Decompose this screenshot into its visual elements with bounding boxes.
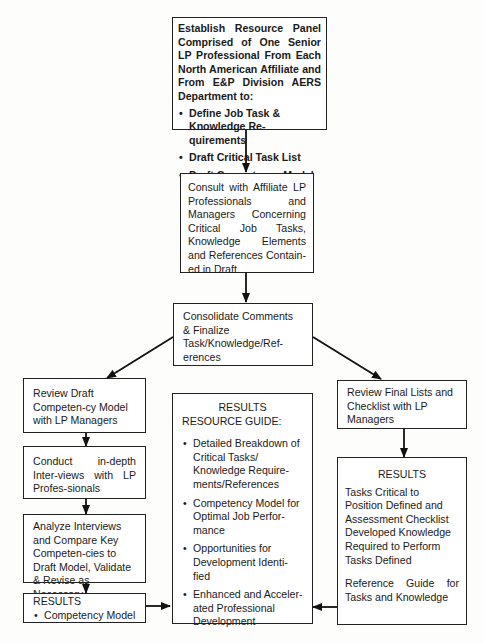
- consolidate-box: Consolidate Comments & Finalize Task/Kno…: [173, 303, 313, 366]
- bullet-item: Enhanced and Acceler-ated Professional D…: [182, 588, 303, 629]
- bullet-item: Detailed Breakdown of Critical Tasks/ Kn…: [182, 437, 303, 491]
- consult-box: Consult with Affiliate LP Professionals …: [180, 173, 314, 273]
- bullet-item: Define Job Task & Knowledge Re-quirement…: [178, 107, 321, 148]
- results-tasks-para2: Reference Guide for Tasks and Knowledge: [345, 577, 459, 604]
- results-tasks-box: RESULTS Tasks Critical to Position Defin…: [337, 457, 467, 625]
- analyze-interviews-text: Analyze Interviews and Compare Key Compe…: [33, 520, 136, 602]
- review-final-box: Review Final Lists and Checklist with LP…: [337, 380, 467, 429]
- bullet-item: Draft Critical Task List: [178, 151, 321, 165]
- conduct-interviews-box: Conduct in-depth Inter-views with LP Pro…: [23, 446, 146, 499]
- results-competency-title: RESULTS: [33, 595, 136, 609]
- establish-panel-box: Establish Resource Panel Comprised of On…: [172, 17, 327, 130]
- resource-guide-box: RESULTS RESOURCE GUIDE: Detailed Breakdo…: [172, 393, 313, 624]
- results-tasks-para1: Tasks Critical to Position Defined and A…: [345, 486, 459, 568]
- results-competency-box: RESULTS Competency Model: [23, 593, 146, 623]
- resource-guide-bullets: Detailed Breakdown of Critical Tasks/ Kn…: [182, 437, 303, 629]
- conduct-interviews-text: Conduct in-depth Inter-views with LP Pro…: [33, 455, 136, 496]
- analyze-interviews-box: Analyze Interviews and Compare Key Compe…: [23, 514, 146, 583]
- arrow-consolidate-to-review-draft: [107, 337, 173, 378]
- review-final-text: Review Final Lists and Checklist with LP…: [347, 386, 457, 427]
- resource-guide-subtitle: RESOURCE GUIDE:: [182, 415, 303, 429]
- consult-text: Consult with Affiliate LP Professionals …: [188, 181, 306, 276]
- review-draft-text: Review Draft Competen-cy Model with LP M…: [33, 387, 136, 428]
- results-competency-bullets: Competency Model: [33, 609, 136, 623]
- review-draft-box: Review Draft Competen-cy Model with LP M…: [23, 378, 146, 433]
- arrow-consolidate-to-review-final: [313, 337, 381, 379]
- resource-guide-title: RESULTS: [182, 401, 303, 415]
- establish-panel-bullets: Define Job Task & Knowledge Re-quirement…: [178, 107, 321, 183]
- establish-panel-text: Establish Resource Panel Comprised of On…: [178, 22, 321, 104]
- results-tasks-title: RESULTS: [345, 468, 459, 482]
- bullet-item: Competency Model for Optimal Job Perfor-…: [182, 497, 303, 538]
- consolidate-text: Consolidate Comments & Finalize Task/Kno…: [183, 310, 303, 364]
- bullet-item: Competency Model: [33, 609, 136, 623]
- bullet-item: Opportunities for Development Identi-fie…: [182, 542, 303, 583]
